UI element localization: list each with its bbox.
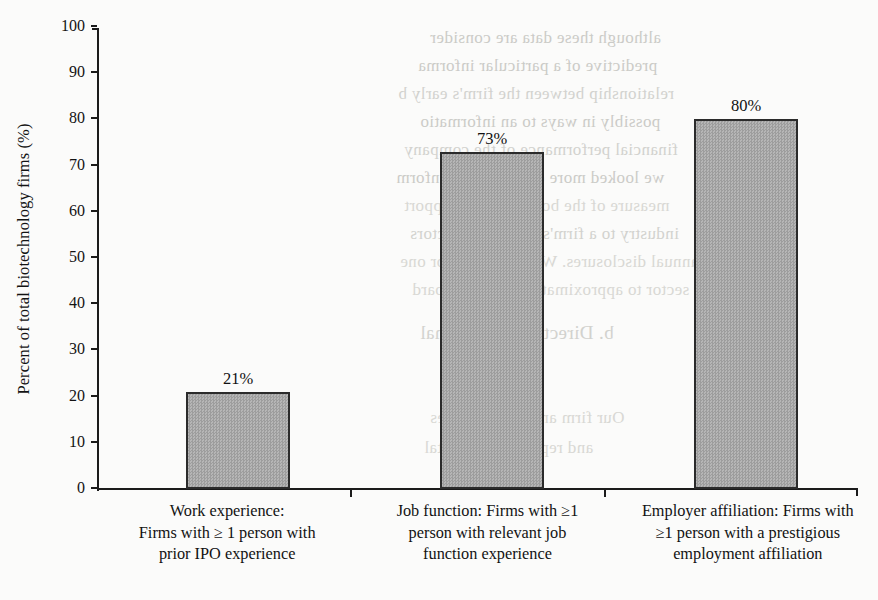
y-axis-tick: 20	[91, 395, 97, 397]
x-axis-category-label: Job function: Firms with ≥1person with r…	[357, 500, 617, 592]
x-axis-end-cap	[856, 488, 858, 496]
x-axis-category-label-line: function experience	[361, 543, 613, 565]
y-axis-tick: 60	[91, 210, 97, 212]
y-axis-tick-label: 20	[69, 387, 85, 405]
y-axis-tick-label: 10	[69, 433, 85, 451]
y-axis-tick: 0	[91, 487, 97, 489]
x-axis-category-tick	[350, 489, 352, 497]
x-axis-category-label-line: employment affiliation	[622, 543, 874, 565]
plot-area: 0102030405060708090100 21%73%80%	[97, 28, 858, 490]
y-axis-tick: 90	[91, 71, 97, 73]
y-axis-tick-label: 40	[69, 294, 85, 312]
y-axis-tick: 10	[91, 441, 97, 443]
y-axis-tick: 50	[91, 256, 97, 258]
x-axis-category-label-line: Firms with ≥ 1 person with	[101, 522, 353, 544]
y-axis-top-cap	[92, 28, 99, 30]
bar-value-label: 73%	[477, 129, 507, 149]
figure-page: although these data are consider predict…	[0, 0, 878, 600]
y-axis-tick: 70	[91, 164, 97, 166]
y-axis-tick-label: 100	[61, 17, 85, 35]
x-axis-category-label-line: Employer affiliation: Firms with	[622, 500, 874, 522]
x-axis-category-label-line: person with relevant job	[361, 522, 613, 544]
bar-value-label: 80%	[731, 96, 761, 116]
y-axis-tick-label: 60	[69, 202, 85, 220]
bar: 21%	[186, 392, 290, 489]
y-axis-tick: 80	[91, 117, 97, 119]
bar: 80%	[694, 119, 798, 489]
y-axis-tick-label: 0	[77, 479, 85, 497]
y-axis-tick-label: 80	[69, 109, 85, 127]
y-axis-tick-label: 50	[69, 248, 85, 266]
bar: 73%	[440, 152, 544, 489]
y-axis-tick-label: 90	[69, 63, 85, 81]
y-axis-tick-label: 30	[69, 340, 85, 358]
y-axis-tick: 40	[91, 302, 97, 304]
x-axis-category-tick	[604, 489, 606, 497]
bar-chart: Percent of total biotechnology firms (%)…	[0, 0, 878, 600]
bar-value-label: 21%	[223, 369, 253, 389]
y-axis-label: Percent of total biotechnology firms (%)	[14, 28, 44, 490]
y-axis-tick: 30	[91, 348, 97, 350]
y-axis-spine	[97, 28, 99, 491]
x-axis-category-label: Employer affiliation: Firms with≥1 perso…	[618, 500, 878, 592]
y-axis-tick-label: 70	[69, 156, 85, 174]
x-axis-category-label-line: ≥1 person with a prestigious	[622, 522, 874, 544]
x-axis-category-label-line: prior IPO experience	[101, 543, 353, 565]
x-axis-category-label: Work experience:Firms with ≥ 1 person wi…	[97, 500, 357, 592]
y-axis-tick: 100	[91, 25, 97, 27]
x-axis-category-labels: Work experience:Firms with ≥ 1 person wi…	[97, 500, 878, 592]
x-axis-category-label-line: Job function: Firms with ≥1	[361, 500, 613, 522]
x-axis-category-label-line: Work experience:	[101, 500, 353, 522]
